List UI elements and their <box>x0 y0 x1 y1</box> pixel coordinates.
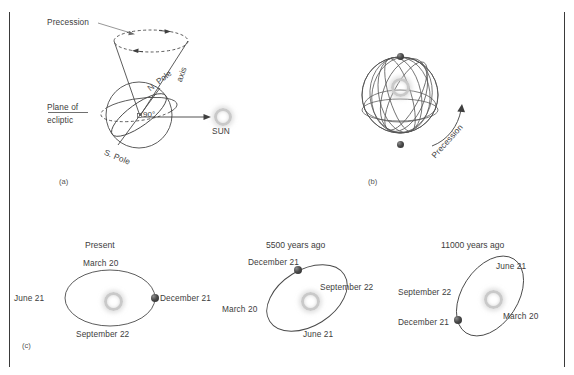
label-sun: SUN <box>212 127 230 137</box>
orbit-5500-label-right: September 22 <box>320 283 373 293</box>
sun-glyph-panel-a <box>214 108 232 126</box>
orbit-5500-label-top: December 21 <box>248 258 299 268</box>
panel-tag-c: (c) <box>22 341 31 350</box>
label-precession-panel-a: Precession <box>47 18 89 28</box>
orbit-present-label-top: March 20 <box>83 259 118 269</box>
orbit-title-5500: 5500 years ago <box>266 240 325 250</box>
panel-a-artwork <box>48 23 211 148</box>
label-south-pole: S. Pole <box>102 148 131 167</box>
orbit-5500-label-bottom: June 21 <box>303 330 333 340</box>
label-north-pole: N. Pole <box>146 69 174 94</box>
caption-clipped <box>108 367 558 374</box>
sun-glyph-orbit-present <box>104 292 123 311</box>
orbit-title-present: Present <box>85 240 115 250</box>
pole-marker-south <box>397 141 404 148</box>
label-angle-90-value: 90 <box>143 110 152 119</box>
label-axis: axis <box>175 66 189 84</box>
figure-artwork <box>0 0 574 375</box>
earth-marker-orbit-present <box>151 294 159 302</box>
label-plane-of: Plane of <box>47 103 78 113</box>
orbit-11000-label-right: March 20 <box>503 312 538 322</box>
label-ecliptic: ecliptic <box>47 116 73 126</box>
label-angle-90-unit: ° <box>152 110 155 119</box>
orbit-present-label-left: June 21 <box>14 294 44 304</box>
earth-marker-orbit-11000 <box>454 316 462 324</box>
orbit-11000-label-top: June 21 <box>496 262 526 272</box>
figure-border-right <box>564 12 565 367</box>
label-precession-panel-b: Precession <box>430 123 465 161</box>
orbit-5500-label-left: March 20 <box>222 305 257 315</box>
sun-glyph-orbit-11000 <box>484 290 503 309</box>
panel-tag-b: (b) <box>368 177 377 186</box>
sun-glyph-panel-b <box>391 78 410 97</box>
panel-tag-a: (a) <box>59 177 68 186</box>
orbit-present-label-right: December 21 <box>160 294 211 304</box>
precession-figure: Precession N. Pole axis Plane of eclipti… <box>0 0 574 375</box>
orbit-present-label-bottom: September 22 <box>76 330 129 340</box>
orbit-11000-label-bottom: December 21 <box>398 318 449 328</box>
label-angle-90: 90° <box>143 110 155 119</box>
pole-marker-north <box>397 53 404 60</box>
figure-border-left <box>9 12 10 367</box>
sun-glyph-orbit-5500 <box>301 292 320 311</box>
orbit-11000-label-left: September 22 <box>398 288 451 298</box>
orbit-title-11000: 11000 years ago <box>441 240 504 250</box>
